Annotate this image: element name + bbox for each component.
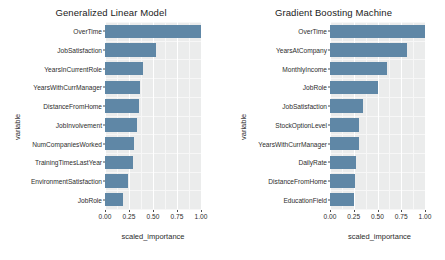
y-axis-tick-mark: [328, 199, 330, 200]
x-axis-tick-mark: [354, 210, 355, 212]
x-axis-tick-label: 0.50: [147, 213, 160, 220]
bar: [330, 25, 425, 38]
y-axis-tick-mark: [328, 68, 330, 69]
plot-background: [330, 22, 425, 209]
y-axis-tick-mark: [103, 68, 105, 69]
y-axis-tick-mark: [103, 199, 105, 200]
y-axis-tick-mark: [103, 180, 105, 181]
x-axis-tick-mark: [201, 210, 202, 212]
bar: [105, 137, 134, 150]
y-axis-tick-mark: [328, 106, 330, 107]
bar: [330, 43, 407, 56]
y-axis-tick-mark: [328, 87, 330, 88]
bar: [105, 43, 156, 56]
gridline-vertical-minor: [189, 22, 190, 209]
gridline-vertical-minor: [413, 22, 414, 209]
x-axis-tick-mark: [425, 210, 426, 212]
bar: [330, 81, 378, 94]
y-axis-tick-mark: [103, 162, 105, 163]
y-axis-tick-label: OverTime: [73, 28, 102, 35]
gridline-vertical-major: [425, 22, 426, 209]
bar: [105, 62, 143, 75]
x-axis-tick-mark: [105, 210, 106, 212]
x-axis-tick-mark: [401, 210, 402, 212]
x-axis-tick-label: 0.75: [171, 213, 184, 220]
y-axis-tick-label: DistanceFromHome: [268, 177, 327, 184]
y-axis-tick-label: JobSatisfaction: [282, 103, 327, 110]
y-axis-tick-label: YearsWithCurrManager: [33, 84, 102, 91]
y-axis-tick-label: YearsWithCurrManager: [258, 140, 327, 147]
x-axis-tick-mark: [330, 210, 331, 212]
x-axis-title: scaled_importance: [222, 232, 445, 241]
y-axis-tick-label: MonthlyIncome: [282, 65, 327, 72]
bar: [330, 99, 363, 112]
x-axis-tick-mark: [129, 210, 130, 212]
bar: [105, 193, 123, 206]
x-axis-tick-mark: [378, 210, 379, 212]
x-axis-tick-label: 1.00: [195, 213, 208, 220]
y-axis-tick-label: JobSatisfaction: [57, 47, 102, 54]
y-axis-tick-mark: [103, 87, 105, 88]
y-axis-tick-mark: [328, 31, 330, 32]
bar: [330, 193, 354, 206]
y-axis-tick-label: YearsAtCompany: [276, 47, 327, 54]
bar: [330, 118, 359, 131]
bar: [330, 137, 359, 150]
plot-background: [105, 22, 201, 209]
bar: [105, 118, 137, 131]
bar: [105, 81, 140, 94]
y-axis-tick-label: DailyRate: [298, 159, 327, 166]
x-axis-tick-label: 1.00: [419, 213, 432, 220]
y-axis-tick-label: EnvironmentSatisfaction: [31, 177, 102, 184]
x-axis-tick-label: 0.75: [395, 213, 408, 220]
plot-area-glm: OverTimeJobSatisfactionYearsInCurrentRol…: [0, 0, 222, 260]
y-axis-tick-label: JobRole: [303, 84, 327, 91]
bar: [105, 25, 201, 38]
x-axis-tick-label: 0.00: [99, 213, 112, 220]
y-axis-tick-mark: [328, 124, 330, 125]
gridline-vertical-major: [201, 22, 202, 209]
y-axis-tick-mark: [328, 143, 330, 144]
y-axis-tick-mark: [103, 31, 105, 32]
y-axis-tick-mark: [328, 50, 330, 51]
x-axis-tick-label: 0.00: [324, 213, 337, 220]
y-axis-tick-mark: [103, 143, 105, 144]
figure-root: Generalized Linear Model variable OverTi…: [0, 0, 445, 260]
gridline-vertical-minor: [165, 22, 166, 209]
y-axis-tick-mark: [328, 162, 330, 163]
y-axis-tick-label: EducationField: [283, 196, 327, 203]
plot-area-gbm: OverTimeYearsAtCompanyMonthlyIncomeJobRo…: [222, 0, 445, 260]
bar: [330, 62, 387, 75]
x-axis-tick-label: 0.25: [347, 213, 360, 220]
bar: [105, 174, 128, 187]
y-axis-tick-label: YearsInCurrentRole: [44, 65, 102, 72]
bar: [105, 156, 133, 169]
y-axis-tick-label: DistanceFromHome: [43, 103, 102, 110]
y-axis-tick-mark: [103, 50, 105, 51]
y-axis-tick-mark: [103, 124, 105, 125]
y-axis-tick-mark: [103, 106, 105, 107]
chart-panel-glm: Generalized Linear Model variable OverTi…: [0, 0, 222, 260]
x-axis-tick-mark: [177, 210, 178, 212]
bar: [330, 174, 355, 187]
x-axis-tick-label: 0.25: [123, 213, 136, 220]
x-axis-tick-mark: [153, 210, 154, 212]
y-axis-tick-label: NumCompaniesWorked: [32, 140, 102, 147]
bar: [330, 156, 356, 169]
chart-panel-gbm: Gradient Boosting Machine variable OverT…: [222, 0, 445, 260]
y-axis-tick-label: StockOptionLevel: [275, 121, 327, 128]
bar: [105, 99, 139, 112]
y-axis-tick-mark: [328, 180, 330, 181]
y-axis-tick-label: JobInvolvement: [56, 121, 102, 128]
x-axis-tick-label: 0.50: [371, 213, 384, 220]
y-axis-tick-label: OverTime: [298, 28, 327, 35]
gridline-vertical-major: [177, 22, 178, 209]
y-axis-tick-label: TrainingTimesLastYear: [35, 159, 102, 166]
y-axis-tick-label: JobRole: [78, 196, 102, 203]
